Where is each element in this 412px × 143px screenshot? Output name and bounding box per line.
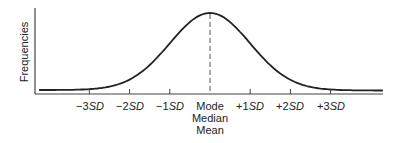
tick-label-mean: Mean — [196, 124, 224, 136]
tick-label-mode: Mode — [196, 100, 224, 112]
normal-curve — [39, 13, 383, 91]
bell-curve-chart: Frequencies −3SD −2SD −1SD Mode Median M… — [0, 0, 412, 143]
tick-label-plus-1sd: +1SD — [236, 100, 264, 112]
tick-label-minus-1sd: −1SD — [156, 100, 184, 112]
y-axis-title: Frequencies — [18, 21, 30, 82]
tick-label-minus-2sd: −2SD — [116, 100, 144, 112]
tick-label-plus-3sd: +3SD — [317, 100, 345, 112]
x-tick-labels: −3SD −2SD −1SD Mode Median Mean +1SD +2S… — [76, 100, 345, 136]
tick-label-median: Median — [192, 112, 228, 124]
tick-label-minus-3sd: −3SD — [76, 100, 104, 112]
tick-label-plus-2sd: +2SD — [276, 100, 304, 112]
